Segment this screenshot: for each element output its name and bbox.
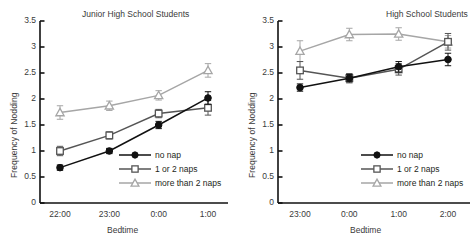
legend-label: 1 or 2 naps	[152, 164, 198, 174]
x-tick-label: 22:00	[36, 209, 84, 219]
y-tick-label: 2	[248, 93, 274, 103]
legend: no nap1 or 2 napsmore than 2 naps	[118, 148, 221, 190]
open-triangle-icon	[118, 177, 152, 189]
y-tick-label: 1	[248, 145, 274, 155]
legend-label: no nap	[394, 150, 423, 160]
legend: no nap1 or 2 napsmore than 2 naps	[360, 148, 463, 190]
y-tick-label: 3.5	[10, 15, 36, 25]
open-square-icon	[360, 163, 394, 175]
series-1-or-2-naps	[297, 33, 452, 82]
open-square-icon	[118, 163, 152, 175]
legend-item: no nap	[118, 148, 221, 162]
series-more-than-2-naps	[296, 28, 452, 62]
y-tick-label: 2	[10, 93, 36, 103]
y-tick-label: 1	[10, 145, 36, 155]
y-tick-label: 0	[10, 197, 36, 207]
x-tick-label: 0:00	[135, 209, 183, 219]
x-tick-label: 0:00	[325, 209, 373, 219]
legend-item: 1 or 2 naps	[360, 162, 463, 176]
legend-label: more than 2 naps	[394, 178, 463, 188]
x-tick-label: 2:00	[424, 209, 472, 219]
filled-circle-icon	[118, 149, 152, 161]
y-tick-label: 3	[248, 41, 274, 51]
y-tick-label: 0	[248, 197, 274, 207]
legend-label: no nap	[152, 150, 181, 160]
legend-label: more than 2 naps	[152, 178, 221, 188]
series-more-than-2-naps	[56, 64, 212, 120]
y-tick-label: 0.5	[248, 171, 274, 181]
x-tick-label: 1:00	[184, 209, 232, 219]
y-tick-label: 3.5	[248, 15, 274, 25]
legend-item: more than 2 naps	[118, 176, 221, 190]
y-tick-label: 0.5	[10, 171, 36, 181]
x-tick-label: 23:00	[85, 209, 133, 219]
y-tick-label: 2.5	[10, 67, 36, 77]
legend-label: 1 or 2 naps	[394, 164, 440, 174]
y-tick-label: 1.5	[248, 119, 274, 129]
x-tick-label: 23:00	[276, 209, 324, 219]
legend-item: no nap	[360, 148, 463, 162]
figure-two-panel-line-charts: Junior High School Students Frequency of…	[0, 0, 476, 240]
filled-circle-icon	[360, 149, 394, 161]
legend-item: 1 or 2 naps	[118, 162, 221, 176]
panel-high-school: High School Students Frequency of Noddin…	[238, 0, 476, 240]
y-tick-label: 3	[10, 41, 36, 51]
y-tick-label: 1.5	[10, 119, 36, 129]
open-triangle-icon	[360, 177, 394, 189]
legend-item: more than 2 naps	[360, 176, 463, 190]
panel-junior-high-school: Junior High School Students Frequency of…	[0, 0, 238, 240]
x-tick-label: 1:00	[375, 209, 423, 219]
series-no-nap	[297, 53, 452, 91]
y-tick-label: 2.5	[248, 67, 274, 77]
